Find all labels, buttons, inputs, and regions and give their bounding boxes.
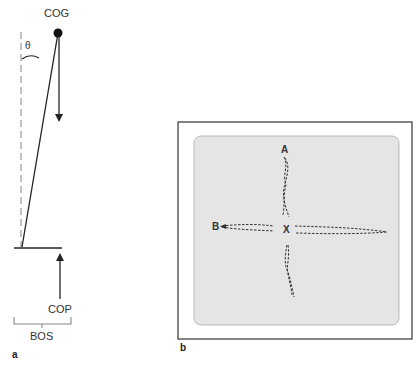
bos-bracket bbox=[14, 317, 71, 328]
body-line bbox=[22, 33, 58, 247]
point-a-label: A bbox=[281, 144, 288, 155]
panel-a-label: a bbox=[12, 349, 18, 360]
theta-arc bbox=[22, 56, 39, 59]
cog-dot bbox=[54, 29, 63, 38]
theta-label: θ bbox=[25, 40, 31, 51]
cog-label: COG bbox=[44, 7, 69, 19]
center-x-label: X bbox=[283, 224, 290, 235]
panel-b-label: b bbox=[180, 342, 186, 353]
force-plate bbox=[194, 136, 399, 325]
point-b-label: B bbox=[212, 221, 219, 232]
bos-label: BOS bbox=[30, 330, 53, 342]
cop-label: COP bbox=[48, 303, 72, 315]
